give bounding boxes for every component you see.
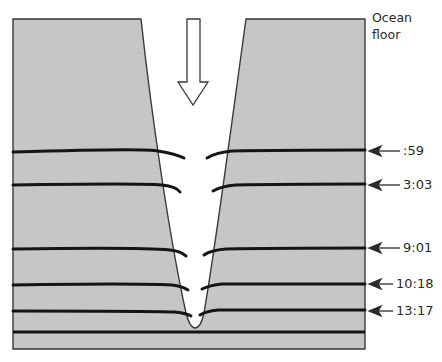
ocean-floor-label-line2: floor — [372, 26, 412, 43]
layer-label-1317: 13:17 — [396, 303, 433, 319]
ocean-floor-label: Ocean floor — [372, 9, 412, 43]
down-arrow-icon — [178, 19, 208, 105]
layer-label-303: 3:03 — [403, 177, 432, 193]
layer-label-901: 9:01 — [403, 240, 432, 256]
layer-label-59: :59 — [403, 143, 424, 159]
ocean-floor-label-line1: Ocean — [372, 9, 412, 26]
ocean-floor-diagram — [0, 0, 442, 362]
layer-label-1018: 10:18 — [396, 276, 433, 292]
